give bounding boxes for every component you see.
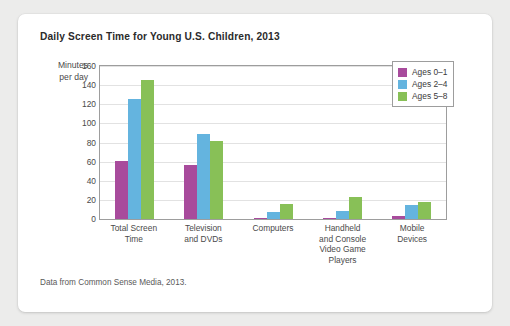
x-axis-label: Handheldand ConsoleVideo GamePlayers (308, 223, 378, 265)
x-axis-label-line: Handheld (309, 223, 377, 234)
x-axis-label: MobileDevices (377, 223, 447, 265)
x-axis-label-line: Television (170, 223, 238, 234)
bar (184, 165, 197, 219)
legend-swatch-icon (398, 92, 407, 101)
x-axis-label-line: and DVDs (170, 234, 238, 245)
legend-item-label: Ages 2–4 (412, 79, 447, 89)
source-note: Data from Common Sense Media, 2013. (40, 278, 187, 287)
x-axis-label-line: Time (100, 234, 168, 245)
x-axis-label: Computers (238, 223, 308, 265)
legend-item-label: Ages 5–8 (412, 91, 447, 101)
bar-group (238, 66, 307, 219)
bar (197, 134, 210, 219)
legend-swatch-icon (398, 68, 407, 77)
bar (210, 141, 223, 219)
bar (280, 204, 293, 219)
bar (254, 218, 267, 219)
x-axis-label-line: Computers (239, 223, 307, 234)
chart-card: Daily Screen Time for Young U.S. Childre… (18, 14, 492, 312)
chart-title: Daily Screen Time for Young U.S. Childre… (40, 31, 280, 42)
y-tick-label: 80 (87, 138, 96, 148)
y-tick-label: 60 (87, 157, 96, 167)
x-axis-label-line: Devices (378, 234, 446, 245)
x-axis-label-line: Video Game (309, 244, 377, 255)
bar (418, 202, 431, 219)
bar (141, 80, 154, 219)
y-tick-label: 20 (87, 195, 96, 205)
x-axis-labels: Total ScreenTimeTelevisionand DVDsComput… (99, 223, 447, 265)
x-axis-label-line: and Console (309, 234, 377, 245)
bar (128, 99, 141, 219)
x-axis-label-line: Total Screen (100, 223, 168, 234)
legend-swatch-icon (398, 80, 407, 89)
x-axis-label: Total ScreenTime (99, 223, 169, 265)
bar (405, 205, 418, 219)
x-axis-label: Televisionand DVDs (169, 223, 239, 265)
y-tick-label: 100 (82, 118, 96, 128)
bar-group (100, 66, 169, 219)
y-tick-label: 140 (82, 80, 96, 90)
legend-item: Ages 2–4 (398, 78, 447, 90)
chart-legend: Ages 0–1Ages 2–4Ages 5–8 (392, 61, 454, 107)
bar-group (308, 66, 377, 219)
x-axis-label-line: Players (309, 255, 377, 266)
legend-item: Ages 5–8 (398, 90, 447, 102)
y-tick-label: 0 (91, 214, 96, 224)
y-tick-label: 120 (82, 99, 96, 109)
bar (115, 161, 128, 219)
bar (392, 216, 405, 219)
y-tick-label: 160 (82, 61, 96, 71)
bar (336, 211, 349, 219)
x-axis-label-line: Mobile (378, 223, 446, 234)
y-tick-label: 40 (87, 176, 96, 186)
bar (267, 212, 280, 219)
bar-group (169, 66, 238, 219)
legend-item: Ages 0–1 (398, 66, 447, 78)
bar (323, 218, 336, 219)
bar (349, 197, 362, 219)
legend-item-label: Ages 0–1 (412, 67, 447, 77)
page-background: Daily Screen Time for Young U.S. Childre… (0, 0, 510, 326)
